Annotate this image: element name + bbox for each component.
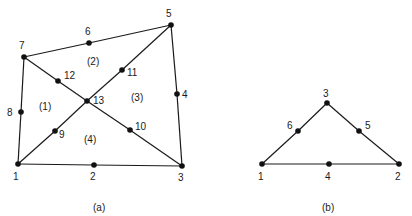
edge-6-7 (24, 43, 89, 57)
node-5-label: 5 (166, 8, 172, 19)
edge-1-9 (18, 131, 55, 164)
node-4-dot (326, 161, 332, 167)
node-5-dot (356, 128, 362, 134)
node-5-dot (168, 22, 174, 28)
node-1-dot (259, 161, 265, 167)
edge-7-12 (24, 57, 58, 81)
node-13-dot (84, 98, 90, 104)
node-2-dot (91, 162, 97, 168)
diagram-a-caption: (a) (93, 202, 105, 213)
node-10-dot (127, 127, 133, 133)
edge-5-3 (327, 103, 359, 131)
element-label: (1) (39, 101, 51, 112)
node-6-dot (86, 40, 92, 46)
node-7-dot (21, 54, 27, 60)
node-7-label: 7 (19, 40, 25, 51)
node-3-label: 3 (178, 172, 184, 183)
element-label: (4) (84, 134, 96, 145)
edge-4-5 (171, 25, 177, 94)
node-2-label: 2 (90, 171, 96, 182)
edge-7-8 (21, 57, 24, 112)
edge-9-13 (55, 101, 87, 131)
node-1-dot (15, 161, 21, 167)
edge-1-2 (18, 164, 94, 165)
element-label: (3) (131, 92, 143, 103)
node-6-label: 6 (287, 120, 293, 131)
node-5-label: 5 (365, 120, 371, 131)
node-8-dot (18, 109, 24, 115)
node-6-dot (295, 128, 301, 134)
node-1-label: 1 (258, 171, 264, 182)
diagram-a-quadrilateral-mesh: 12345678910111213 (1)(2)(3)(4) (a) (7, 8, 188, 213)
node-9-dot (52, 128, 58, 134)
edge-5-6 (89, 25, 171, 43)
edge-3-4 (177, 94, 182, 166)
node-3-dot (179, 163, 185, 169)
node-4-label: 4 (182, 89, 188, 100)
element-label: (2) (87, 56, 99, 67)
node-12-dot (55, 78, 61, 84)
edge-10-3 (130, 130, 182, 166)
node-12-label: 12 (64, 70, 76, 81)
node-3-label: 3 (323, 88, 329, 99)
edge-11-5 (122, 25, 171, 70)
node-9-label: 9 (59, 129, 65, 140)
edge-3-6 (298, 103, 327, 131)
diagram-b-nodes: 123456 (258, 88, 402, 182)
node-2-dot (396, 161, 402, 167)
node-1-label: 1 (13, 171, 19, 182)
node-2-label: 2 (395, 171, 401, 182)
node-13-label: 13 (93, 95, 105, 106)
diagram-b-edges (262, 103, 399, 164)
edge-12-13 (58, 81, 87, 101)
finite-element-mesh-figure: 12345678910111213 (1)(2)(3)(4) (a) 12345… (0, 0, 412, 216)
node-8-label: 8 (7, 107, 13, 118)
node-4-dot (174, 91, 180, 97)
edge-6-1 (262, 131, 298, 164)
node-4-label: 4 (325, 171, 331, 182)
diagram-b-triangle-element: 123456 (b) (258, 88, 402, 213)
node-3-dot (324, 100, 330, 106)
node-10-label: 10 (135, 121, 147, 132)
edge-2-5 (359, 131, 399, 164)
edge-2-3 (94, 165, 182, 166)
node-6-label: 6 (85, 26, 91, 37)
node-11-dot (119, 67, 125, 73)
node-11-label: 11 (127, 67, 138, 78)
diagram-b-caption: (b) (322, 202, 334, 213)
edge-8-1 (18, 112, 21, 164)
